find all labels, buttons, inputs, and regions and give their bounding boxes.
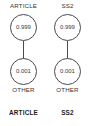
caption-row: ARTICLE SS2	[0, 108, 90, 120]
column-article-edge	[23, 41, 24, 59]
column-article: ARTICLE 0.999 0.001 OTHER	[1, 0, 46, 100]
diagram-canvas: ARTICLE 0.999 0.001 OTHER SS2 0.999 0.00…	[0, 0, 90, 126]
column-article-top-label: ARTICLE	[1, 2, 46, 10]
column-ss2-edge	[67, 41, 68, 59]
caption-ss2: SS2	[45, 108, 90, 118]
column-ss2-bottom-label: OTHER	[45, 86, 90, 94]
column-ss2-top-label: SS2	[45, 2, 90, 10]
column-ss2-upper-node-value: 0.999	[60, 24, 75, 31]
column-article-bottom-label: OTHER	[1, 86, 46, 94]
caption-article: ARTICLE	[1, 108, 46, 118]
column-ss2: SS2 0.999 0.001 OTHER	[45, 0, 90, 100]
column-ss2-lower-node: 0.001	[54, 58, 81, 85]
column-ss2-lower-node-value: 0.001	[60, 68, 75, 75]
column-article-lower-node: 0.001	[10, 58, 37, 85]
column-ss2-upper-node: 0.999	[54, 14, 81, 41]
column-article-lower-node-value: 0.001	[16, 68, 31, 75]
column-article-upper-node: 0.999	[10, 14, 37, 41]
column-article-upper-node-value: 0.999	[16, 24, 31, 31]
